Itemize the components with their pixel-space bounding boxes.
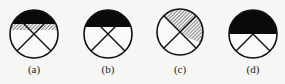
panel-b-diagram bbox=[82, 8, 134, 58]
panel-a-diagram bbox=[8, 8, 60, 58]
panel-d-label: (d) bbox=[238, 63, 268, 75]
panel-b-label: (b) bbox=[93, 63, 123, 75]
panel-c-label: (c) bbox=[165, 63, 195, 75]
panel-a-label: (a) bbox=[19, 63, 49, 75]
panel-c-diagram bbox=[157, 9, 205, 55]
panel-d-diagram bbox=[227, 8, 279, 58]
